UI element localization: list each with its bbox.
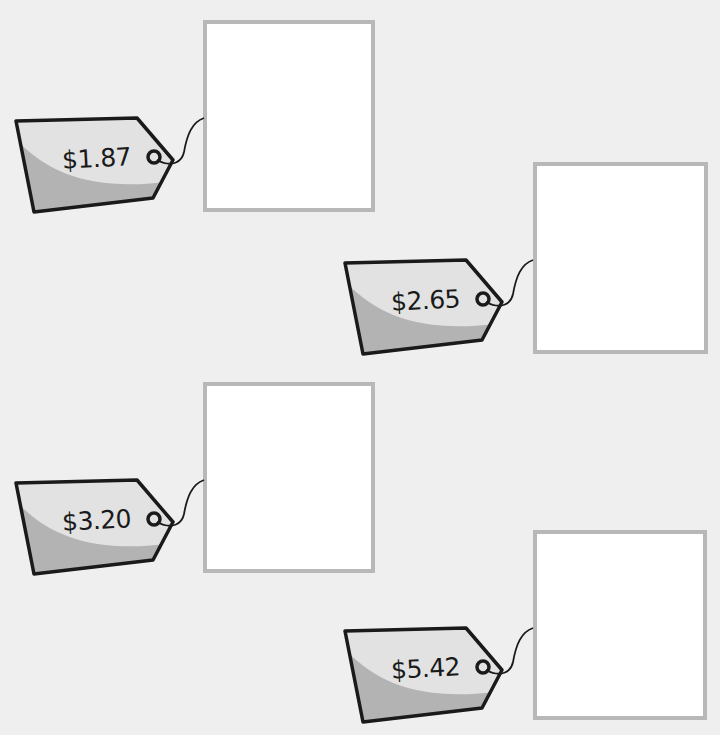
price-tag-2: $2.65 <box>341 242 541 362</box>
answer-box-2[interactable] <box>533 162 708 354</box>
price-label: $3.20 <box>61 504 132 537</box>
price-label: $1.87 <box>61 142 132 175</box>
price-tag-4: $5.42 <box>341 610 541 730</box>
answer-box-1[interactable] <box>203 20 375 212</box>
price-label: $2.65 <box>390 284 461 317</box>
price-label: $5.42 <box>390 652 461 685</box>
answer-box-3[interactable] <box>203 382 375 573</box>
price-tag-1: $1.87 <box>12 100 212 220</box>
answer-box-4[interactable] <box>533 530 707 720</box>
price-tag-3: $3.20 <box>12 462 212 582</box>
